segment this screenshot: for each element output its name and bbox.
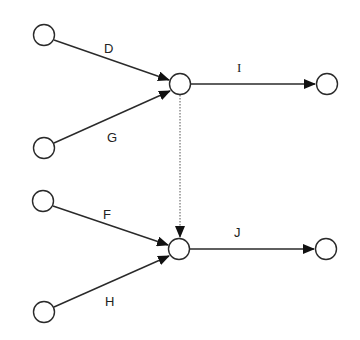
node-4: [317, 74, 338, 95]
diagram-svg: D G I F H J: [0, 0, 360, 340]
node-8: [316, 239, 337, 260]
label-f: F: [103, 207, 111, 222]
node-6: [34, 302, 55, 323]
node-3: [170, 74, 191, 95]
node-7: [169, 239, 190, 260]
node-5: [33, 191, 54, 212]
label-d: D: [104, 41, 113, 56]
node-1: [34, 25, 55, 46]
label-h: H: [105, 294, 114, 309]
label-g: G: [107, 130, 117, 145]
node-2: [34, 138, 55, 159]
network-diagram: D G I F H J: [0, 0, 360, 340]
label-j: J: [234, 225, 241, 240]
label-i: I: [237, 60, 241, 75]
